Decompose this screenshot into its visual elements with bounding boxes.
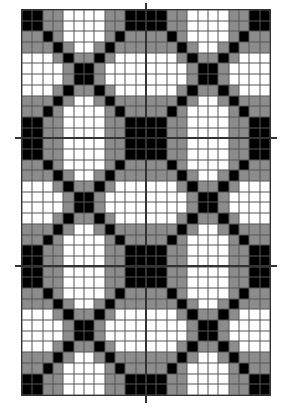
quilt-cell [125,341,135,352]
quilt-cell [187,277,197,288]
quilt-cell [22,53,32,64]
quilt-cell [239,331,249,342]
quilt-cell [63,138,73,149]
quilt-cell [94,331,104,342]
quilt-cell [22,106,32,117]
quilt-cell [177,224,187,235]
quilt-cell [94,341,104,352]
quilt-cell [146,224,156,235]
quilt-cell [229,224,239,235]
quilt-cell [105,106,115,117]
quilt-cell [43,384,53,395]
quilt-cell [198,374,208,385]
quilt-cell [239,352,249,363]
quilt-cell [229,341,239,352]
quilt-cell [74,331,84,342]
quilt-cell [115,10,125,21]
quilt-cell [208,74,218,85]
quilt-cell [208,288,218,299]
quilt-cell [187,320,197,331]
quilt-cell [53,299,63,310]
quilt-cell [229,331,239,342]
quilt-cell [105,181,115,192]
quilt-cell [84,299,94,310]
quilt-cell [156,374,166,385]
quilt-cell [53,341,63,352]
quilt-cell [43,192,53,203]
quilt-cell [260,202,270,213]
quilt-cell [84,192,94,203]
quilt-cell [125,149,135,160]
quilt-cell [260,245,270,256]
quilt-cell [22,42,32,53]
quilt-cell [94,288,104,299]
quilt-cell [74,374,84,385]
quilt-cell [32,202,42,213]
quilt-cell [63,10,73,21]
quilt-cell [187,149,197,160]
quilt-cell [156,341,166,352]
quilt-cell [208,181,218,192]
quilt-cell [198,10,208,21]
quilt-cell [156,202,166,213]
quilt-cell [43,363,53,374]
quilt-cell [22,267,32,278]
quilt-cell [43,202,53,213]
quilt-cell [43,288,53,299]
quilt-cell [229,74,239,85]
quilt-cell [84,363,94,374]
quilt-cell [53,10,63,21]
quilt-cell [260,363,270,374]
quilt-cell [43,42,53,53]
quilt-cell [218,42,228,53]
quilt-cell [167,374,177,385]
quilt-cell [229,320,239,331]
quilt-cell [208,170,218,181]
quilt-cell [74,384,84,395]
quilt-cell [239,63,249,74]
quilt-cell [229,352,239,363]
quilt-cell [208,21,218,32]
quilt-cell [229,363,239,374]
quilt-cell [187,213,197,224]
quilt-cell [187,117,197,128]
quilt-cell [198,224,208,235]
quilt-cell [239,10,249,21]
quilt-cell [115,53,125,64]
quilt-cell [63,74,73,85]
quilt-cell [249,384,259,395]
quilt-cell [105,202,115,213]
quilt-cell [156,149,166,160]
quilt-cell [22,309,32,320]
quilt-cell [43,299,53,310]
quilt-cell [43,309,53,320]
quilt-cell [63,117,73,128]
quilt-cell [177,106,187,117]
quilt-cell [156,160,166,171]
quilt-cell [74,224,84,235]
quilt-cell [218,235,228,246]
quilt-cell [74,341,84,352]
quilt-cell [187,42,197,53]
quilt-cell [198,288,208,299]
quilt-cell [146,363,156,374]
quilt-cell [43,63,53,74]
quilt-cell [208,309,218,320]
quilt-block [146,267,270,395]
quilt-block [22,10,146,138]
quilt-cell [74,149,84,160]
quilt-cell [84,309,94,320]
horizontal-guide-line [15,137,277,139]
quilt-cell [167,309,177,320]
quilt-cell [239,224,249,235]
quilt-cell [146,341,156,352]
quilt-cell [53,235,63,246]
quilt-cell [239,267,249,278]
quilt-cell [187,331,197,342]
quilt-cell [260,181,270,192]
quilt-cell [53,181,63,192]
quilt-cell [239,42,249,53]
quilt-cell [239,21,249,32]
quilt-cell [115,106,125,117]
quilt-cell [229,384,239,395]
